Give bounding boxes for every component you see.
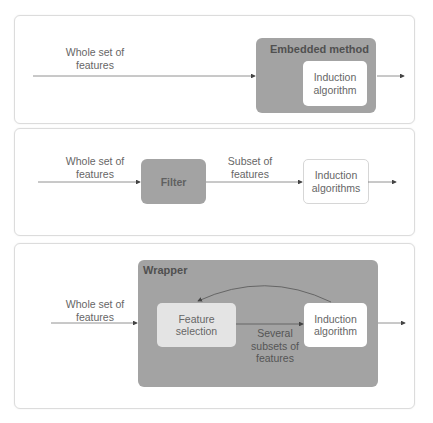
connector-arrows	[0, 0, 433, 423]
